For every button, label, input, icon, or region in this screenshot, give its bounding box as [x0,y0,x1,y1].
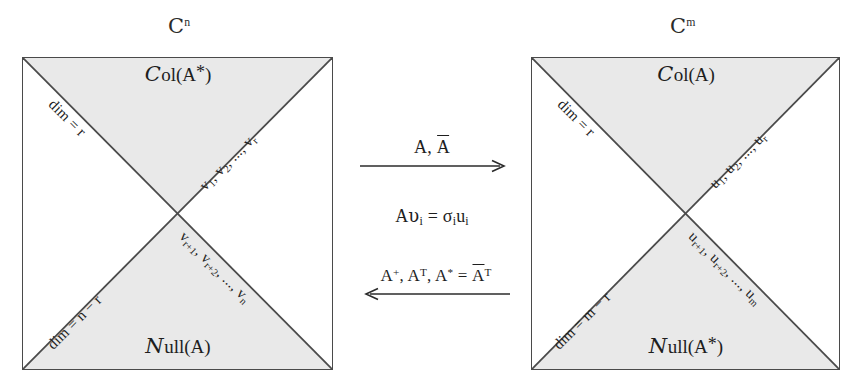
forward-transform-label: A, A [414,137,450,158]
svd-equation: Aυi = σiui [395,205,469,227]
left-space-label: Cn [168,14,190,38]
equation-sigma: σ [443,206,453,226]
right-bottom-subspace-name: Null(A*) [649,334,723,358]
left-top-name-close: ) [205,64,211,85]
conjugate-a: A [472,266,484,286]
left-top-name-rest: ol(A [161,64,196,85]
right-space-symbol: C [670,14,686,38]
script-c: C [145,62,162,86]
svd-four-subspaces-diagram: Cn Col(A*) Null(A) dim = r v1, v2, ..., … [0,0,852,389]
right-bottom-name-star: * [708,334,717,354]
right-bottom-name-rest: ull(A [668,336,708,357]
backward-arrow [360,286,510,302]
right-space-exponent: m [686,16,695,29]
script-c: C [657,62,674,86]
forward-matrix-a: A, [414,137,437,157]
forward-arrow [360,158,510,174]
forward-matrix-a-conj: A [437,137,450,158]
right-bottom-name-close: ) [717,336,723,357]
right-space-label: Cm [670,14,696,38]
left-top-subspace-name: Col(A*) [145,62,212,86]
left-space-symbol: C [168,14,184,38]
equation-v: υ [408,205,419,226]
right-top-name-rest: ol(A) [674,64,715,85]
backward-transform-label: A+, AT, A* = AT [380,266,491,286]
script-n: N [649,334,668,358]
left-bottom-subspace-name: Null(A) [145,334,210,358]
equation-u: u [456,206,465,226]
adjoint-a: A [435,266,447,285]
transpose-a: A [407,266,419,285]
equation-matrix: A [395,206,408,226]
left-space-exponent: n [184,16,190,29]
script-n: N [145,334,164,358]
pseudoinverse-a: A [380,266,392,285]
right-top-subspace-name: Col(A) [657,62,715,86]
left-bottom-name-rest: ull(A) [164,336,210,357]
